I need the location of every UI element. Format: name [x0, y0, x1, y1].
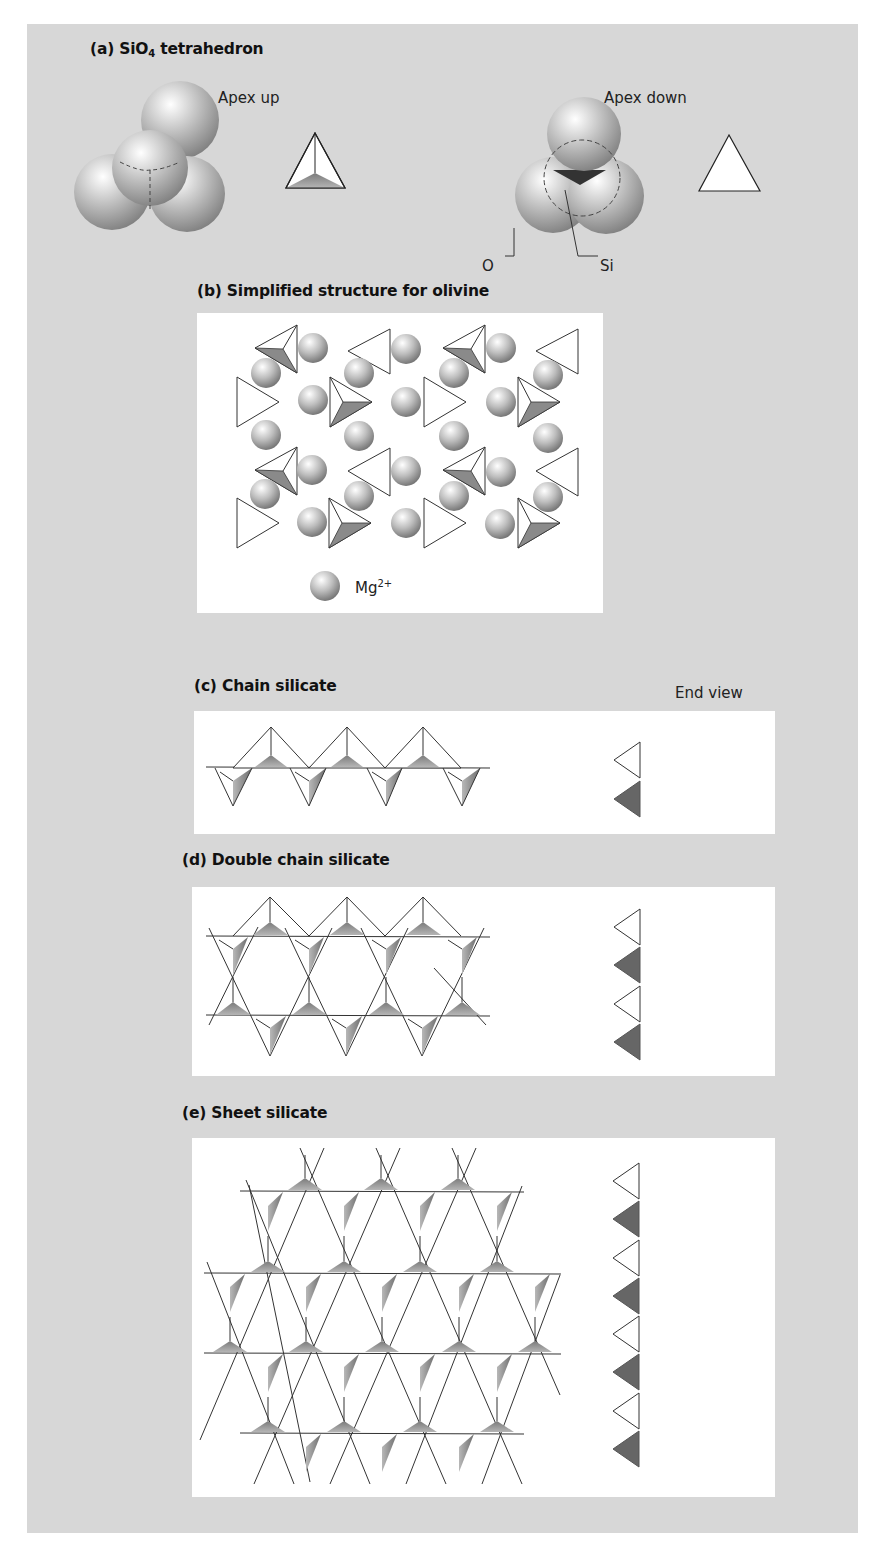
sheet-end-view-icon: [613, 1163, 639, 1467]
sheet-tetrahedra-faces: [213, 1155, 552, 1472]
sheet-silicate-diagram: [0, 0, 881, 1562]
